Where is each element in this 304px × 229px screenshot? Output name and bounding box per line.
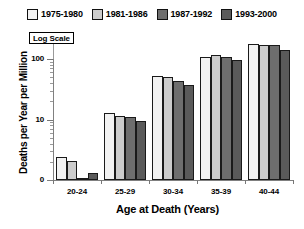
bar-40-44-1975-1980[interactable] — [248, 44, 259, 180]
x-tick-label-25-29: 25-29 — [102, 187, 148, 196]
bar-20-24-1975-1980[interactable] — [56, 157, 67, 180]
bar-25-29-1993-2000[interactable] — [136, 121, 147, 180]
x-tick-label-35-39: 35-39 — [198, 187, 244, 196]
legend-entry-1975-1980: 1975-1980 — [27, 9, 83, 20]
bar-30-34-1975-1980[interactable] — [152, 76, 163, 180]
y-tick-label-100: 100 — [18, 55, 44, 63]
y-tick-label-10: 10 — [18, 116, 44, 124]
bar-25-29-1975-1980[interactable] — [104, 113, 115, 180]
bar-35-39-1981-1986[interactable] — [211, 55, 222, 180]
log-scale-leader-line — [53, 44, 54, 59]
legend-label-1975-1980: 1975-1980 — [41, 9, 83, 20]
legend-swatch-1975-1980 — [27, 9, 38, 20]
x-axis-line — [47, 180, 294, 181]
chart-legend: 1975-1980 1981-1986 1987-1992 1993-2000 — [0, 9, 304, 20]
bar-35-39-1993-2000[interactable] — [232, 60, 243, 180]
x-tick — [245, 180, 246, 184]
x-tick-label-40-44: 40-44 — [246, 187, 292, 196]
bar-group-30-34 — [152, 34, 194, 180]
bar-30-34-1981-1986[interactable] — [163, 77, 174, 180]
bar-40-44-1993-2000[interactable] — [280, 50, 291, 180]
bar-35-39-1987-1992[interactable] — [221, 57, 232, 180]
bar-20-24-1981-1986[interactable] — [67, 161, 78, 180]
chart-figure: 1975-1980 1981-1986 1987-1992 1993-2000 … — [0, 0, 304, 229]
bar-25-29-1987-1992[interactable] — [125, 117, 136, 180]
x-tick — [101, 180, 102, 184]
x-tick — [293, 180, 294, 184]
bar-group-35-39 — [200, 34, 242, 180]
legend-label-1987-1992: 1987-1992 — [171, 9, 213, 20]
x-tick — [197, 180, 198, 184]
y-tick-label-baseline: 0 — [18, 176, 44, 184]
x-tick — [53, 180, 54, 184]
legend-swatch-1987-1992 — [157, 9, 168, 20]
bar-20-24-1993-2000[interactable] — [88, 173, 99, 180]
legend-label-1981-1986: 1981-1986 — [106, 9, 148, 20]
legend-entry-1993-2000: 1993-2000 — [221, 9, 277, 20]
bar-35-39-1975-1980[interactable] — [200, 57, 211, 180]
legend-entry-1981-1986: 1981-1986 — [92, 9, 148, 20]
bar-group-40-44 — [248, 34, 290, 180]
legend-entry-1987-1992: 1987-1992 — [157, 9, 213, 20]
bar-25-29-1981-1986[interactable] — [115, 116, 126, 180]
bar-30-34-1987-1992[interactable] — [173, 81, 184, 180]
bar-40-44-1987-1992[interactable] — [269, 45, 280, 180]
bar-40-44-1981-1986[interactable] — [259, 45, 270, 180]
legend-swatch-1993-2000 — [221, 9, 232, 20]
x-axis-title: Age at Death (Years) — [40, 203, 295, 215]
legend-label-1993-2000: 1993-2000 — [235, 9, 277, 20]
x-tick — [149, 180, 150, 184]
legend-swatch-1981-1986 — [92, 9, 103, 20]
bar-30-34-1993-2000[interactable] — [184, 85, 195, 181]
log-scale-annotation: Log Scale — [29, 32, 74, 44]
x-tick-label-30-34: 30-34 — [150, 187, 196, 196]
x-tick-label-20-24: 20-24 — [54, 187, 100, 196]
plot-area — [53, 34, 293, 180]
bar-group-20-24 — [56, 34, 98, 180]
bar-20-24-1987-1992[interactable] — [77, 178, 88, 180]
bar-group-25-29 — [104, 34, 146, 180]
